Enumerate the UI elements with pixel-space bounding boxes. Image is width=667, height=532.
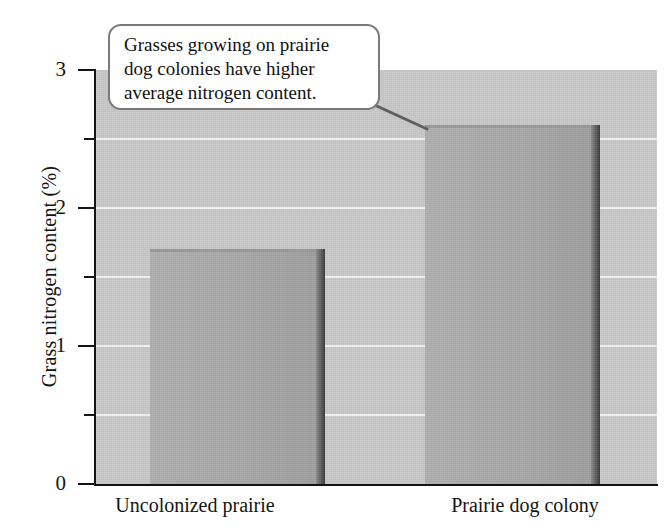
bar-chart-figure: 3 2 1 0 Grass nitrogen content (%) Uncol…: [0, 0, 667, 532]
bar-right-shadow: [591, 125, 600, 484]
y-tick-0: [78, 483, 95, 485]
y-tick-label-3: 3: [0, 59, 72, 80]
bar-right-shadow: [316, 249, 325, 484]
bar-face: [425, 125, 600, 484]
plot-area: [95, 70, 657, 484]
y-tick-2: [78, 207, 95, 209]
bar-uncolonized-prairie[interactable]: [150, 249, 325, 484]
bar-top-edge: [425, 125, 600, 128]
y-tick-0_5: [84, 414, 95, 416]
y-tick-1: [78, 345, 95, 347]
x-category-label-prairie-dog-colony: Prairie dog colony: [390, 494, 660, 517]
callout-box: Grasses growing on prairie dog colonies …: [108, 24, 380, 110]
x-axis-line: [94, 484, 658, 486]
bar-face: [150, 249, 325, 484]
bar-prairie-dog-colony[interactable]: [425, 125, 600, 484]
y-tick-2_5: [84, 138, 95, 140]
y-tick-3: [78, 69, 95, 71]
y-tick-label-1: 1: [0, 335, 72, 356]
bar-top-edge: [150, 249, 325, 252]
x-category-label-uncolonized-prairie: Uncolonized prairie: [60, 494, 330, 517]
y-tick-label-2: 2: [0, 197, 72, 218]
y-axis-title: Grass nitrogen content (%): [38, 77, 61, 477]
callout-text: Grasses growing on prairie dog colonies …: [124, 33, 366, 105]
y-tick-label-0: 0: [0, 473, 72, 494]
y-tick-1_5: [84, 276, 95, 278]
